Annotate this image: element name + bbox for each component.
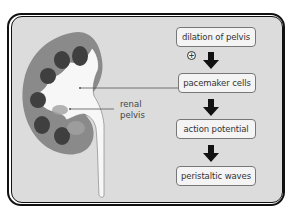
arrow-down-icon (203, 52, 219, 69)
renal-pelvis-label: renal pelvis (120, 99, 145, 121)
arrow-down-icon (203, 99, 219, 116)
step-dilation-of-pelvis: dilation of pelvis (176, 27, 256, 47)
step-pacemaker-cells: pacemaker cells (178, 73, 256, 93)
step-action-potential: action potential (176, 119, 256, 139)
arrow-down-icon (203, 145, 219, 162)
renal-pelvis-label-line2: pelvis (120, 110, 145, 121)
renal-pelvis-label-line1: renal (120, 99, 145, 110)
step-peristaltic-waves: peristaltic waves (176, 166, 256, 186)
positive-stimulus-icon: + (187, 51, 196, 60)
